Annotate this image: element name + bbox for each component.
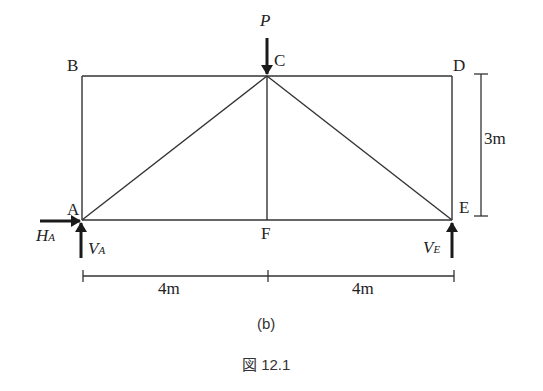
node-label-c: C bbox=[274, 52, 285, 69]
reaction-label-ha-main: H bbox=[36, 226, 48, 245]
node-label-e: E bbox=[459, 199, 469, 216]
truss-figure: B C D A E F P HA VA VE 3m 4m 4m (b) 図 12… bbox=[0, 0, 543, 391]
subfigure-caption: (b) bbox=[257, 316, 275, 331]
member-ac bbox=[82, 76, 267, 220]
dimension-label-span-left: 4m bbox=[158, 280, 180, 297]
dimension-label-height: 3m bbox=[484, 130, 506, 147]
load-label-p: P bbox=[260, 12, 270, 29]
node-label-b: B bbox=[67, 57, 78, 74]
node-label-f: F bbox=[261, 225, 270, 242]
member-ce bbox=[267, 76, 452, 220]
truss-members bbox=[82, 76, 452, 220]
node-label-d: D bbox=[453, 57, 465, 74]
reaction-label-va-sub: A bbox=[98, 244, 105, 256]
reaction-label-ve-sub: E bbox=[433, 243, 440, 255]
node-label-a: A bbox=[67, 201, 79, 218]
span-dimension-line bbox=[83, 270, 454, 282]
dimension-label-span-right: 4m bbox=[352, 280, 374, 297]
reaction-label-va-main: V bbox=[88, 239, 98, 258]
reaction-label-va: VA bbox=[88, 240, 105, 257]
reaction-label-ve-main: V bbox=[423, 238, 433, 257]
reaction-label-ve: VE bbox=[423, 239, 440, 256]
reaction-label-ha: HA bbox=[36, 227, 55, 244]
reaction-label-ha-sub: A bbox=[48, 231, 55, 243]
load-arrows bbox=[40, 38, 452, 258]
figure-caption: 図 12.1 bbox=[242, 357, 290, 372]
